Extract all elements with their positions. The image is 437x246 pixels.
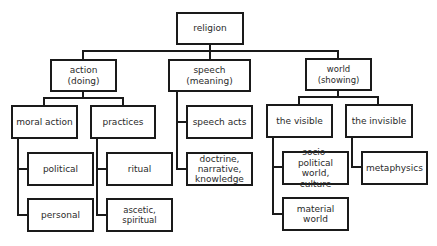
node-material-world: material world <box>282 197 349 231</box>
node-the-invisible: the invisible <box>345 104 413 138</box>
node-ascetic-spiritual: ascetic, spiritual <box>106 198 173 232</box>
node-speech-meaning: speech (meaning) <box>168 59 251 92</box>
node-metaphysics: metaphysics <box>361 151 428 185</box>
religion-diagram: religion action (doing) speech (meaning)… <box>0 0 437 246</box>
node-personal: personal <box>27 198 94 232</box>
node-world-showing: world (showing) <box>305 58 372 91</box>
node-the-visible: the visible <box>266 104 333 138</box>
node-socio-political-world-culture: socio-political world, culture <box>282 151 349 185</box>
node-ritual: ritual <box>106 152 173 186</box>
node-political: political <box>27 152 94 186</box>
node-doctrine-narrative-knowledge: doctrine, narrative, knowledge <box>186 152 253 186</box>
node-speech-acts: speech acts <box>186 105 253 139</box>
node-religion: religion <box>176 12 244 45</box>
node-practices: practices <box>90 105 156 139</box>
node-action-doing: action (doing) <box>50 59 117 92</box>
node-moral-action: moral action <box>11 105 78 139</box>
